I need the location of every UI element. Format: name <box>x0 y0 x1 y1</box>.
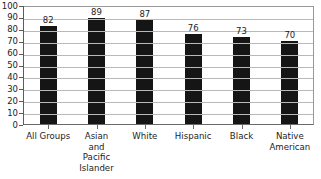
x-tick-mark <box>242 125 243 129</box>
y-tick-label-90: 90 <box>7 13 18 22</box>
y-tick-label-10: 10 <box>7 109 18 118</box>
x-tick-mark <box>290 125 291 129</box>
gridline <box>24 78 313 79</box>
y-tick-label-40: 40 <box>7 73 18 82</box>
y-tick-mark <box>19 89 23 90</box>
bar-value-label: 87 <box>130 10 160 19</box>
bar[interactable] <box>88 18 105 124</box>
x-tick-mark <box>193 125 194 129</box>
x-tick-mark <box>97 125 98 129</box>
gridline <box>24 55 313 56</box>
y-tick-label-60: 60 <box>7 49 18 58</box>
y-tick-mark <box>19 18 23 19</box>
x-label-line: and <box>68 142 126 153</box>
y-tick-mark <box>19 6 23 7</box>
bar-value-label: 70 <box>275 31 305 40</box>
bars-layer <box>24 7 313 124</box>
y-tick-mark <box>19 101 23 102</box>
gridline <box>24 114 313 115</box>
bar-value-label: 89 <box>82 8 112 17</box>
bar-value-label: 76 <box>178 24 208 33</box>
y-tick-label-0: 0 <box>13 121 18 130</box>
x-label-line: Pacific <box>68 152 126 163</box>
y-tick-label-30: 30 <box>7 85 18 94</box>
gridline <box>24 19 313 20</box>
y-tick-label-50: 50 <box>7 61 18 70</box>
bar-value-label: 73 <box>227 27 257 36</box>
y-tick-mark <box>19 125 23 126</box>
bar-value-label: 82 <box>33 16 63 25</box>
y-tick-mark <box>19 113 23 114</box>
bar[interactable] <box>136 20 153 124</box>
gridline <box>24 31 313 32</box>
y-axis: 100 90 80 70 60 50 40 30 20 10 0 <box>0 0 24 131</box>
y-tick-label-20: 20 <box>7 97 18 106</box>
plot-area <box>24 6 314 125</box>
x-axis-label: NativeAmerican <box>261 131 319 152</box>
x-label-line: American <box>261 142 319 153</box>
y-tick-mark <box>19 77 23 78</box>
y-tick-mark <box>19 42 23 43</box>
gridline <box>24 67 313 68</box>
bar[interactable] <box>281 41 298 124</box>
x-tick-mark <box>48 125 49 129</box>
y-tick-mark <box>19 30 23 31</box>
y-tick-label-80: 80 <box>7 25 18 34</box>
bar-chart: 100 90 80 70 60 50 40 30 20 10 0 All Gro… <box>0 0 321 179</box>
y-tick-mark <box>19 54 23 55</box>
x-tick-mark <box>145 125 146 129</box>
y-tick-label-100: 100 <box>2 2 18 11</box>
x-label-line: Native <box>261 131 319 142</box>
bar[interactable] <box>40 26 57 124</box>
y-tick-mark <box>19 66 23 67</box>
x-label-line: Islander <box>68 163 126 174</box>
y-tick-label-70: 70 <box>7 37 18 46</box>
bar[interactable] <box>233 37 250 124</box>
gridline <box>24 43 313 44</box>
gridline <box>24 102 313 103</box>
gridline <box>24 90 313 91</box>
